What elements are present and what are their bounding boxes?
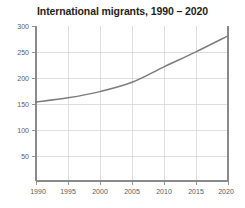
x-tick-label-2020: 2020 xyxy=(218,188,234,195)
x-tick-label-2015: 2015 xyxy=(188,188,204,195)
x-tick-label-2000: 2000 xyxy=(92,188,108,195)
y-axis-labels: 300 250 200 150 100 50 xyxy=(17,23,29,160)
y-tick-label-100: 100 xyxy=(17,127,29,134)
y-tick-label-150: 150 xyxy=(17,101,29,108)
x-tick-label-1990: 1990 xyxy=(30,188,46,195)
x-tick-label-2010: 2010 xyxy=(156,188,172,195)
y-tick-label-50: 50 xyxy=(21,153,29,160)
y-tick-label-250: 250 xyxy=(17,49,29,56)
x-tick-label-2005: 2005 xyxy=(124,188,140,195)
gridlines-vertical xyxy=(68,26,196,181)
x-axis-labels: 1990 1995 2000 2005 2010 2015 2020 xyxy=(30,188,234,195)
chart-figure: International migrants, 1990 – 2020 xyxy=(0,0,245,208)
x-axis-tick-marks xyxy=(36,181,228,185)
y-axis-tick-marks xyxy=(32,26,36,156)
y-tick-label-200: 200 xyxy=(17,75,29,82)
x-tick-label-1995: 1995 xyxy=(60,188,76,195)
y-tick-label-300: 300 xyxy=(17,23,29,30)
line-chart-plot: 300 250 200 150 100 50 1990 1995 2000 20… xyxy=(0,0,245,208)
